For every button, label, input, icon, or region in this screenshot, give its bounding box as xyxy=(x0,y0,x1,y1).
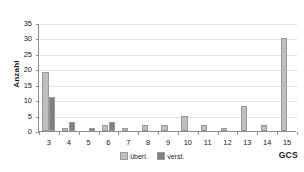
bar-group xyxy=(39,23,59,131)
y-axis-tick-label: 10 xyxy=(10,97,32,105)
x-axis-tick-label: 14 xyxy=(257,138,277,147)
legend: überl.verst. xyxy=(0,152,304,160)
x-axis-tick-label: 4 xyxy=(59,138,79,147)
x-axis-title: GCS xyxy=(279,150,298,160)
bar-group xyxy=(158,23,178,131)
bar-group xyxy=(99,23,119,131)
bar xyxy=(122,128,128,131)
bar-group xyxy=(118,23,138,131)
bar-group xyxy=(277,23,297,131)
y-axis-tick-label: 35 xyxy=(10,20,32,28)
bar xyxy=(221,128,227,131)
bar-group xyxy=(257,23,277,131)
bar xyxy=(62,128,68,131)
bar-group xyxy=(138,23,158,131)
x-axis-tick-mark xyxy=(118,132,119,135)
bar xyxy=(49,97,55,131)
x-axis-tick-mark xyxy=(237,132,238,135)
bar xyxy=(142,125,148,131)
plot-area: 3456789101112131415 xyxy=(38,24,296,132)
x-axis-tick-label: 3 xyxy=(39,138,59,147)
x-axis-tick-mark xyxy=(218,132,219,135)
x-axis-tick-label: 8 xyxy=(138,138,158,147)
x-axis-tick-mark xyxy=(158,132,159,135)
x-axis-tick-label: 10 xyxy=(178,138,198,147)
x-axis-tick-mark xyxy=(99,132,100,135)
bar xyxy=(261,125,267,131)
x-axis-tick-label: 6 xyxy=(98,138,118,147)
x-axis-tick-mark xyxy=(59,132,60,135)
bar xyxy=(69,122,75,131)
bar xyxy=(241,106,247,131)
y-axis-tick-label: 20 xyxy=(10,66,32,74)
bar xyxy=(161,125,167,131)
bar xyxy=(89,128,95,131)
x-axis-tick-label: 9 xyxy=(158,138,178,147)
x-axis-tick-mark xyxy=(257,132,258,135)
legend-swatch xyxy=(120,152,128,160)
bar xyxy=(281,38,287,131)
x-axis-tick-label: 5 xyxy=(79,138,99,147)
x-axis-tick-mark xyxy=(79,132,80,135)
legend-swatch xyxy=(157,152,165,160)
y-axis-tick-label: 25 xyxy=(10,51,32,59)
x-axis-tick-label: 12 xyxy=(218,138,238,147)
x-axis-tick-mark xyxy=(178,132,179,135)
y-axis-tick-label: 15 xyxy=(10,82,32,90)
y-axis-tick-label: 0 xyxy=(10,128,32,136)
bar-group xyxy=(198,23,218,131)
x-axis-tick-mark xyxy=(138,132,139,135)
x-axis-tick-label: 13 xyxy=(237,138,257,147)
x-axis-tick-mark xyxy=(198,132,199,135)
x-axis-tick-mark xyxy=(277,132,278,135)
bar-group xyxy=(79,23,99,131)
bar-group xyxy=(59,23,79,131)
legend-label: überl. xyxy=(130,153,148,160)
bar xyxy=(102,125,108,131)
bar xyxy=(109,122,115,131)
bar-group xyxy=(218,23,238,131)
bar xyxy=(201,125,207,131)
bar-group xyxy=(237,23,257,131)
x-axis-tick-label: 7 xyxy=(118,138,138,147)
legend-label: verst. xyxy=(167,153,184,160)
legend-entry: verst. xyxy=(157,152,185,160)
y-axis-tick-label: 30 xyxy=(10,35,32,43)
x-axis-tick-mark xyxy=(297,132,298,135)
bar xyxy=(181,116,187,131)
bar-chart: Anzahl 05101520253035 345678910111213141… xyxy=(0,0,304,172)
y-axis-tick-label: 5 xyxy=(10,113,32,121)
x-axis-tick-label: 15 xyxy=(277,138,297,147)
bar-group xyxy=(178,23,198,131)
x-axis-tick-label: 11 xyxy=(198,138,218,147)
bar xyxy=(42,72,48,131)
legend-entry: überl. xyxy=(120,152,148,160)
x-axis-tick-mark xyxy=(39,132,40,135)
